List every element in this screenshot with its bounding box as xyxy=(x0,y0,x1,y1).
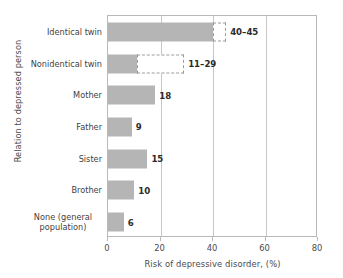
bar-row: None (general population)6 xyxy=(108,206,316,238)
bar-range-extension xyxy=(213,22,226,41)
x-tick-label: 40 xyxy=(207,243,218,253)
category-label: Identical twin xyxy=(47,27,102,37)
category-label: Mother xyxy=(73,90,102,100)
bar-row: Identical twin40–45 xyxy=(108,16,316,48)
category-label: Sister xyxy=(79,154,102,164)
bar-solid xyxy=(108,86,155,105)
bar-value-label: 11–29 xyxy=(188,59,216,69)
bar-row: Nonidentical twin11–29 xyxy=(108,48,316,80)
bar-value-label: 15 xyxy=(151,154,163,164)
bar-group: 6 xyxy=(108,213,318,232)
bar-group: 11–29 xyxy=(108,54,318,73)
bar-value-label: 6 xyxy=(128,217,134,227)
category-label: Father xyxy=(76,122,102,132)
bar-group: 40–45 xyxy=(108,22,318,41)
bar-row: Brother10 xyxy=(108,175,316,207)
x-tick-80 xyxy=(317,237,318,241)
bar-group: 10 xyxy=(108,181,318,200)
bar-chart-figure: Relation to depressed person Risk of dep… xyxy=(0,0,343,278)
x-tick-label: 80 xyxy=(312,243,323,253)
category-label: Nonidentical twin xyxy=(31,59,102,69)
bar-group: 15 xyxy=(108,149,318,168)
x-axis-title: Risk of depressive disorder, (%) xyxy=(107,259,318,269)
bar-solid xyxy=(108,149,147,168)
bar-group: 9 xyxy=(108,117,318,136)
x-tick-label: 0 xyxy=(104,243,109,253)
plot-area: Identical twin40–45Nonidentical twin11–2… xyxy=(107,15,317,237)
bar-value-label: 40–45 xyxy=(230,27,258,37)
bar-solid xyxy=(108,213,124,232)
bar-solid xyxy=(108,54,137,73)
x-tick-60 xyxy=(265,237,266,241)
bar-row: Sister15 xyxy=(108,143,316,175)
bar-value-label: 18 xyxy=(159,90,171,100)
x-tick-40 xyxy=(212,237,213,241)
bar-solid xyxy=(108,181,134,200)
bar-group: 18 xyxy=(108,86,318,105)
bar-value-label: 9 xyxy=(136,122,142,132)
bar-range-extension xyxy=(137,54,184,73)
category-label: None (general population) xyxy=(24,212,102,232)
bar-solid xyxy=(108,117,132,136)
x-tick-label: 60 xyxy=(259,243,270,253)
bar-row: Mother18 xyxy=(108,79,316,111)
x-tick-20 xyxy=(160,237,161,241)
x-tick-label: 20 xyxy=(154,243,165,253)
bar-row: Father9 xyxy=(108,111,316,143)
x-tick-0 xyxy=(107,237,108,241)
y-axis-title: Relation to depressed person xyxy=(13,1,23,201)
category-label: Brother xyxy=(71,185,102,195)
bar-value-label: 10 xyxy=(138,185,150,195)
bar-solid xyxy=(108,22,213,41)
